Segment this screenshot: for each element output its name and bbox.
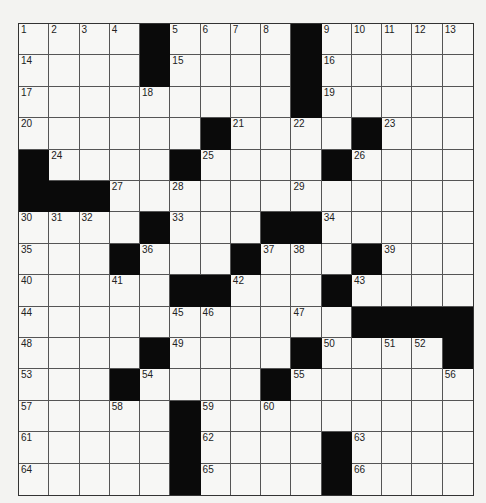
grid-cell[interactable] xyxy=(231,87,261,118)
grid-cell[interactable] xyxy=(382,212,412,243)
grid-cell[interactable]: 60 xyxy=(261,401,291,432)
grid-cell[interactable] xyxy=(412,464,442,495)
grid-cell[interactable] xyxy=(382,275,412,306)
grid-cell[interactable]: 42 xyxy=(231,275,261,306)
grid-cell[interactable] xyxy=(110,432,140,463)
grid-cell[interactable]: 54 xyxy=(140,369,170,400)
grid-cell[interactable] xyxy=(170,369,200,400)
grid-cell[interactable] xyxy=(80,150,110,181)
grid-cell[interactable] xyxy=(201,87,231,118)
grid-cell[interactable] xyxy=(49,464,79,495)
grid-cell[interactable]: 16 xyxy=(322,55,352,86)
grid-cell[interactable] xyxy=(352,87,382,118)
grid-cell[interactable] xyxy=(110,307,140,338)
grid-cell[interactable] xyxy=(382,432,412,463)
grid-cell[interactable]: 41 xyxy=(110,275,140,306)
grid-cell[interactable] xyxy=(412,401,442,432)
grid-cell[interactable] xyxy=(110,118,140,149)
grid-cell[interactable] xyxy=(140,118,170,149)
grid-cell[interactable] xyxy=(80,369,110,400)
grid-cell[interactable] xyxy=(261,181,291,212)
grid-cell[interactable]: 23 xyxy=(382,118,412,149)
grid-cell[interactable]: 25 xyxy=(201,150,231,181)
grid-cell[interactable]: 52 xyxy=(412,338,442,369)
grid-cell[interactable] xyxy=(140,401,170,432)
grid-cell[interactable]: 10 xyxy=(352,24,382,55)
grid-cell[interactable] xyxy=(412,212,442,243)
grid-cell[interactable] xyxy=(49,401,79,432)
grid-cell[interactable] xyxy=(352,369,382,400)
grid-cell[interactable] xyxy=(261,432,291,463)
grid-cell[interactable]: 4 xyxy=(110,24,140,55)
grid-cell[interactable]: 56 xyxy=(443,369,473,400)
grid-cell[interactable] xyxy=(140,181,170,212)
grid-cell[interactable] xyxy=(231,150,261,181)
grid-cell[interactable] xyxy=(201,338,231,369)
grid-cell[interactable] xyxy=(412,181,442,212)
grid-cell[interactable]: 66 xyxy=(352,464,382,495)
grid-cell[interactable]: 17 xyxy=(19,87,49,118)
grid-cell[interactable]: 53 xyxy=(19,369,49,400)
grid-cell[interactable] xyxy=(352,212,382,243)
grid-cell[interactable] xyxy=(140,150,170,181)
grid-cell[interactable]: 59 xyxy=(201,401,231,432)
grid-cell[interactable]: 30 xyxy=(19,212,49,243)
grid-cell[interactable] xyxy=(110,55,140,86)
grid-cell[interactable]: 65 xyxy=(201,464,231,495)
grid-cell[interactable]: 35 xyxy=(19,244,49,275)
grid-cell[interactable] xyxy=(140,432,170,463)
grid-cell[interactable] xyxy=(443,118,473,149)
grid-cell[interactable] xyxy=(201,55,231,86)
grid-cell[interactable] xyxy=(49,307,79,338)
grid-cell[interactable]: 62 xyxy=(201,432,231,463)
grid-cell[interactable] xyxy=(382,464,412,495)
grid-cell[interactable] xyxy=(322,369,352,400)
grid-cell[interactable] xyxy=(382,401,412,432)
grid-cell[interactable] xyxy=(110,150,140,181)
grid-cell[interactable] xyxy=(140,275,170,306)
grid-cell[interactable] xyxy=(201,181,231,212)
grid-cell[interactable]: 3 xyxy=(80,24,110,55)
grid-cell[interactable] xyxy=(231,464,261,495)
grid-cell[interactable] xyxy=(110,338,140,369)
grid-cell[interactable]: 24 xyxy=(49,150,79,181)
grid-cell[interactable] xyxy=(412,369,442,400)
grid-cell[interactable] xyxy=(231,401,261,432)
grid-cell[interactable] xyxy=(443,55,473,86)
grid-cell[interactable]: 28 xyxy=(170,181,200,212)
grid-cell[interactable]: 2 xyxy=(49,24,79,55)
grid-cell[interactable] xyxy=(261,87,291,118)
grid-cell[interactable] xyxy=(140,464,170,495)
grid-cell[interactable] xyxy=(291,150,321,181)
grid-cell[interactable] xyxy=(382,87,412,118)
grid-cell[interactable] xyxy=(49,118,79,149)
grid-cell[interactable] xyxy=(49,55,79,86)
grid-cell[interactable]: 22 xyxy=(291,118,321,149)
grid-cell[interactable] xyxy=(80,118,110,149)
grid-cell[interactable] xyxy=(443,464,473,495)
grid-cell[interactable]: 55 xyxy=(291,369,321,400)
grid-cell[interactable] xyxy=(443,87,473,118)
grid-cell[interactable] xyxy=(80,338,110,369)
grid-cell[interactable] xyxy=(322,244,352,275)
grid-cell[interactable] xyxy=(443,401,473,432)
grid-cell[interactable]: 20 xyxy=(19,118,49,149)
grid-cell[interactable] xyxy=(80,432,110,463)
grid-cell[interactable]: 29 xyxy=(291,181,321,212)
grid-cell[interactable] xyxy=(261,118,291,149)
grid-cell[interactable] xyxy=(231,432,261,463)
grid-cell[interactable] xyxy=(201,369,231,400)
grid-cell[interactable] xyxy=(291,464,321,495)
grid-cell[interactable] xyxy=(382,55,412,86)
grid-cell[interactable] xyxy=(291,275,321,306)
grid-cell[interactable]: 51 xyxy=(382,338,412,369)
grid-cell[interactable] xyxy=(49,338,79,369)
grid-cell[interactable]: 21 xyxy=(231,118,261,149)
grid-cell[interactable] xyxy=(412,150,442,181)
grid-cell[interactable]: 19 xyxy=(322,87,352,118)
grid-cell[interactable]: 57 xyxy=(19,401,49,432)
grid-cell[interactable]: 61 xyxy=(19,432,49,463)
grid-cell[interactable]: 50 xyxy=(322,338,352,369)
grid-cell[interactable] xyxy=(322,181,352,212)
grid-cell[interactable] xyxy=(170,118,200,149)
